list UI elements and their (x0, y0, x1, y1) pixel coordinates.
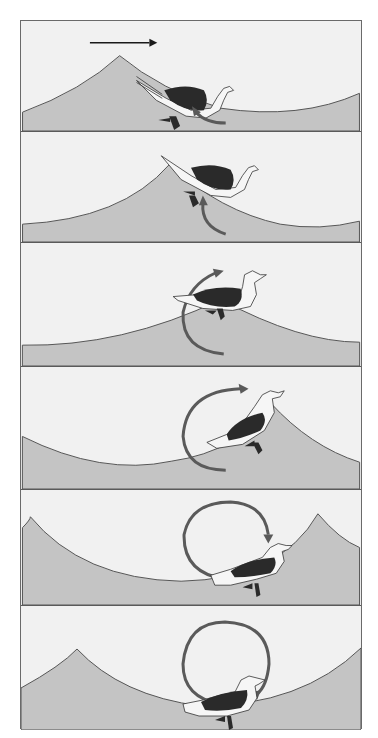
panel-5 (21, 490, 361, 606)
panel-2-illustration (21, 132, 361, 242)
wave (22, 300, 359, 366)
panel-3-illustration (21, 243, 361, 366)
panel-5-illustration (21, 490, 361, 605)
panel-6 (21, 606, 361, 730)
panel-3 (21, 243, 361, 367)
gull-icon (173, 271, 266, 321)
panel-6-illustration (21, 606, 361, 730)
panel-4-illustration (21, 367, 361, 489)
panel-4 (21, 367, 361, 490)
panel-1-illustration (21, 21, 361, 131)
wave-orbit-figure (20, 20, 362, 729)
panel-2 (21, 132, 361, 243)
wave (22, 403, 359, 489)
panel-1 (21, 21, 361, 132)
direction-arrow-icon (90, 39, 157, 47)
